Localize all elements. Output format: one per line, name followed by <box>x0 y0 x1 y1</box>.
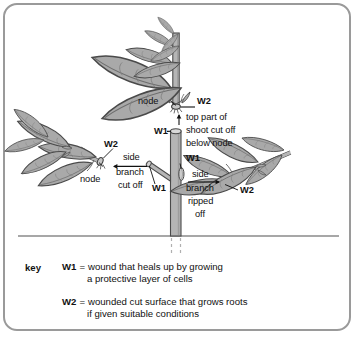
label-top-part-line3: below node <box>186 138 233 149</box>
key-entry-w2: W2 = wounded cut surface that grows root… <box>62 296 247 319</box>
key-text-w2-line1: wounded cut surface that grows roots <box>88 296 247 308</box>
label-node-top: node <box>138 96 158 107</box>
label-w1-right: W1 <box>186 153 200 164</box>
w2-top-cut-surface <box>170 104 182 113</box>
label-w2-right: W2 <box>240 185 254 196</box>
label-side-right-line3: ripped <box>188 196 213 207</box>
label-w2-left: W2 <box>104 139 118 150</box>
key-equals-w1: = <box>76 261 88 273</box>
top-shoot-cutting <box>90 14 190 133</box>
diagram-canvas: node W2 W1 top part of shoot cut off bel… <box>0 0 357 337</box>
label-w2-top: W2 <box>197 96 211 107</box>
key-symbol-w2: W2 <box>62 296 76 308</box>
key-text-w2-line2: if given suitable conditions <box>87 308 247 320</box>
label-node-left: node <box>80 174 100 185</box>
key-heading: key <box>25 262 41 274</box>
left-branch-stump <box>145 160 170 181</box>
label-side-right-line4: off <box>195 209 205 220</box>
label-side-left-line2: branch <box>116 167 144 178</box>
key-equals-w2: = <box>76 296 88 308</box>
label-w1-left: W1 <box>152 183 166 194</box>
label-side-left-line1: side <box>123 152 140 163</box>
key-text-w1-line2: a protective layer of cells <box>87 273 223 285</box>
key-entry-w1: W1 = wound that heals up by growing a pr… <box>62 261 223 284</box>
label-side-left-line3: cut off <box>118 180 142 191</box>
plant-illustration <box>0 0 357 337</box>
label-top-part-line1: top part of <box>186 112 227 123</box>
label-top-part-line2: shoot cut off <box>186 125 235 136</box>
key-text-w1-line1: wound that heals up by growing <box>88 261 223 273</box>
w1-stem-cut-wound <box>171 129 182 134</box>
label-side-right-line1: side <box>192 169 209 180</box>
label-w1-top: W1 <box>154 126 168 137</box>
w1-ripped-branch-scar <box>179 168 184 181</box>
label-side-right-line2: branch <box>186 183 214 194</box>
key-symbol-w1: W1 <box>62 261 76 273</box>
